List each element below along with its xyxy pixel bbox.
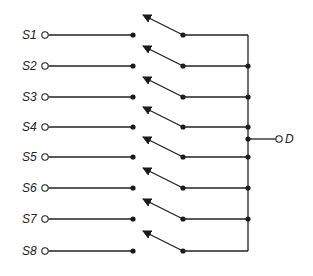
input-label: S5 <box>22 150 37 164</box>
input-terminal-icon <box>42 32 48 38</box>
input-label: S4 <box>22 120 37 134</box>
input-label: S1 <box>22 28 37 42</box>
switch-blade-arrow-icon <box>143 199 183 219</box>
contact-dot-icon <box>130 124 135 129</box>
switch-blade-arrow-icon <box>143 137 183 157</box>
input-label: S2 <box>22 59 37 73</box>
contact-dot-icon <box>130 216 135 221</box>
multiplexer-schematic: S1S2S3S4S5S6S7S8 D <box>0 0 313 276</box>
input-terminal-icon <box>42 216 48 222</box>
input-terminal-icon <box>42 154 48 160</box>
input-label: S6 <box>22 181 37 195</box>
input-label: S3 <box>22 90 37 104</box>
switch-blade-arrow-icon <box>143 46 183 66</box>
output-terminal-group: D <box>245 132 294 146</box>
input-label: S8 <box>22 244 37 258</box>
contact-dot-icon <box>130 154 135 159</box>
switch-row-s8: S8 <box>22 231 248 258</box>
output-label: D <box>285 132 294 146</box>
switch-blade-arrow-icon <box>143 231 183 251</box>
input-terminal-icon <box>42 248 48 254</box>
switch-rows: S1S2S3S4S5S6S7S8 <box>22 15 251 258</box>
input-terminal-icon <box>42 185 48 191</box>
contact-dot-icon <box>130 94 135 99</box>
switch-blade-arrow-icon <box>143 15 183 35</box>
switch-blade-arrow-icon <box>143 168 183 188</box>
switch-blade-arrow-icon <box>143 107 183 127</box>
switch-row-s7: S7 <box>22 199 251 226</box>
switch-row-s3: S3 <box>22 77 251 104</box>
input-terminal-icon <box>42 94 48 100</box>
input-terminal-icon <box>42 63 48 69</box>
contact-dot-icon <box>130 32 135 37</box>
input-label: S7 <box>22 212 38 226</box>
contact-dot-icon <box>130 248 135 253</box>
contact-dot-icon <box>130 63 135 68</box>
switch-blade-arrow-icon <box>143 77 183 97</box>
output-terminal-icon <box>276 136 282 142</box>
switch-row-s5: S5 <box>22 137 251 164</box>
switch-row-s1: S1 <box>22 15 248 42</box>
switch-row-s2: S2 <box>22 46 251 73</box>
contact-dot-icon <box>130 185 135 190</box>
switch-row-s4: S4 <box>22 107 251 134</box>
switch-row-s6: S6 <box>22 168 251 195</box>
input-terminal-icon <box>42 124 48 130</box>
